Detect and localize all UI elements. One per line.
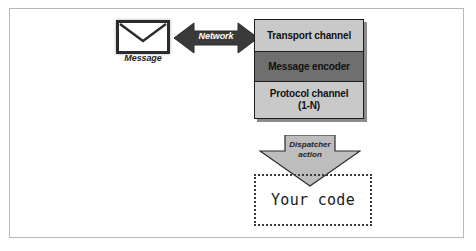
diagram-canvas: Message Network Transport channel Messag…	[0, 0, 476, 251]
your-code-label: Your code	[271, 191, 355, 209]
transport-channel-box: Transport channel	[254, 19, 364, 52]
protocol-channel-label: Protocol channel (1-N)	[270, 88, 349, 112]
message-label: Message	[108, 53, 178, 63]
protocol-channel-line1: Protocol channel	[270, 88, 349, 99]
envelope-icon	[116, 20, 170, 54]
message-envelope	[116, 20, 170, 54]
message-encoder-box: Message encoder	[254, 51, 364, 82]
dispatcher-line2: action	[298, 150, 322, 159]
dispatcher-line1: Dispatcher	[289, 140, 330, 149]
network-label: Network	[174, 31, 258, 41]
your-code-box: Your code	[254, 174, 372, 226]
protocol-channel-box: Protocol channel (1-N)	[254, 81, 364, 119]
protocol-channel-line2: (1-N)	[298, 100, 320, 111]
envelope-fold-icon	[119, 23, 167, 51]
message-encoder-label: Message encoder	[268, 61, 350, 73]
transport-channel-label: Transport channel	[267, 30, 351, 42]
channel-stack: Transport channel Message encoder Protoc…	[254, 19, 364, 119]
dispatcher-action-label: Dispatcher action	[272, 140, 348, 159]
